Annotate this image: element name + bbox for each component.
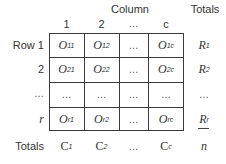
row-label-r: r bbox=[0, 113, 44, 125]
cell-or2: Or2 bbox=[84, 107, 119, 131]
column-total-c2: C2 bbox=[84, 134, 119, 158]
row-label-ellipsis: … bbox=[0, 88, 44, 100]
column-label-ellipsis: … bbox=[119, 18, 148, 30]
cell-o21: O21 bbox=[49, 57, 84, 82]
column-total-cc: Cc bbox=[148, 134, 184, 158]
cell-o1c: O1c bbox=[148, 33, 184, 57]
totals-row-label: Totals bbox=[0, 140, 44, 152]
row-total-r1: R1 bbox=[188, 33, 220, 57]
cell-ellipsis: … bbox=[49, 82, 84, 107]
row-total-r2: R2 bbox=[188, 57, 220, 82]
cell-or1: Or1 bbox=[49, 107, 84, 131]
cell-ellipsis: … bbox=[119, 82, 148, 107]
total-underline bbox=[198, 128, 209, 129]
column-label-c: c bbox=[148, 18, 184, 30]
column-label-2: 2 bbox=[84, 18, 119, 30]
cell-o22: O22 bbox=[84, 57, 119, 82]
grand-total-n: n bbox=[188, 134, 220, 158]
cell-ellipsis: … bbox=[148, 82, 184, 107]
cell-ellipsis: … bbox=[119, 33, 148, 57]
totals-header-title: Totals bbox=[184, 3, 226, 15]
column-total-ellipsis: … bbox=[119, 134, 148, 158]
row-label-1: Row 1 bbox=[0, 39, 44, 51]
cell-orc: Orc bbox=[148, 107, 184, 131]
column-header-title: Column bbox=[100, 3, 160, 15]
row-label-2: 2 bbox=[0, 63, 44, 75]
cell-o12: O12 bbox=[84, 33, 119, 57]
cell-ellipsis: … bbox=[119, 57, 148, 82]
column-label-1: 1 bbox=[49, 18, 84, 30]
cell-o11: O11 bbox=[49, 33, 84, 57]
cell-ellipsis: … bbox=[84, 82, 119, 107]
row-total-ellipsis: … bbox=[188, 82, 220, 107]
column-total-c1: C1 bbox=[49, 134, 84, 158]
cell-ellipsis: … bbox=[119, 107, 148, 131]
cell-o2c: O2c bbox=[148, 57, 184, 82]
